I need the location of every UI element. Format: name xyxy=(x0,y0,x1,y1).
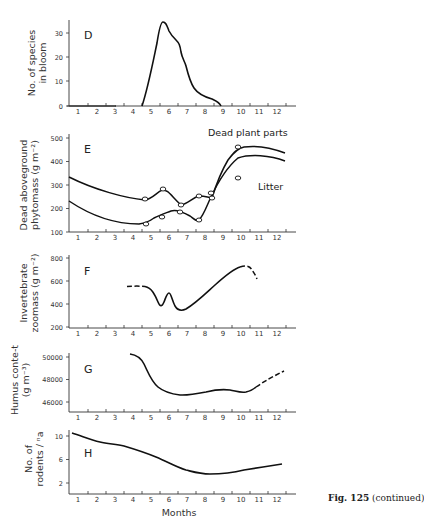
svg-text:10: 10 xyxy=(237,330,246,338)
svg-text:3: 3 xyxy=(113,108,117,116)
svg-text:8: 8 xyxy=(203,414,207,422)
zoomass-dashed-end xyxy=(240,266,257,279)
svg-text:5: 5 xyxy=(149,330,153,338)
svg-text:3: 3 xyxy=(113,234,117,242)
svg-text:7: 7 xyxy=(185,414,189,422)
svg-text:1: 1 xyxy=(76,330,80,338)
y-tick-label: 0 xyxy=(59,103,63,111)
svg-text:6: 6 xyxy=(167,234,172,242)
y-axis-title-2: rodents / ⁿa xyxy=(34,432,45,487)
svg-text:12: 12 xyxy=(273,330,282,338)
panel-d: 0 10 20 30 D No. of species in bloom xyxy=(26,20,296,111)
panel-g: 46000 48000 50000 G Humus conte-t (g m⁻³… xyxy=(9,345,296,415)
y-tick-label: 400 xyxy=(51,301,63,309)
svg-text:12: 12 xyxy=(273,414,282,422)
svg-text:2: 2 xyxy=(95,330,99,338)
y-tick-label: 600 xyxy=(51,278,63,286)
y-axis-title-2: (g m⁻³) xyxy=(20,363,31,398)
svg-text:9: 9 xyxy=(221,108,225,116)
svg-text:12: 12 xyxy=(273,108,282,116)
figure-caption: Fig. 125 (continued) xyxy=(328,493,424,503)
svg-text:7: 7 xyxy=(185,330,189,338)
svg-text:7: 7 xyxy=(185,234,189,242)
svg-text:2: 2 xyxy=(95,234,99,242)
svg-text:1: 1 xyxy=(76,234,80,242)
y-tick-label: 46000 xyxy=(42,399,63,407)
svg-text:5: 5 xyxy=(149,234,153,242)
svg-text:7: 7 xyxy=(185,108,189,116)
rodents-curve xyxy=(72,433,282,474)
svg-text:10: 10 xyxy=(237,234,246,242)
svg-text:1: 1 xyxy=(76,108,80,116)
svg-text:2: 2 xyxy=(95,414,99,422)
y-axis-title-2: in bloom xyxy=(37,42,48,83)
svg-text:11: 11 xyxy=(255,330,264,338)
y-tick-label: 200 xyxy=(51,205,63,213)
svg-text:10: 10 xyxy=(237,414,246,422)
y-tick-label: 500 xyxy=(51,135,63,143)
y-tick-label: 50000 xyxy=(42,354,63,362)
svg-text:11: 11 xyxy=(255,496,264,504)
svg-text:9: 9 xyxy=(221,414,225,422)
svg-text:1: 1 xyxy=(76,414,80,422)
svg-text:6: 6 xyxy=(167,330,172,338)
data-markers xyxy=(142,145,241,226)
svg-text:2: 2 xyxy=(95,496,99,504)
y-axis-title-2: phytomass (g m⁻²) xyxy=(29,140,40,230)
svg-text:11: 11 xyxy=(255,414,264,422)
svg-text:2: 2 xyxy=(95,108,99,116)
month-labels: 1 2 3 4 5 6 7 8 9 10 11 12 1 2 3 4 5 6 7… xyxy=(76,108,282,504)
svg-text:4: 4 xyxy=(131,108,136,116)
figure-caption-suffix: (continued) xyxy=(369,493,424,503)
svg-text:6: 6 xyxy=(167,108,172,116)
series-label-litter: Litter xyxy=(258,181,283,192)
svg-text:8: 8 xyxy=(203,330,207,338)
svg-text:5: 5 xyxy=(149,496,153,504)
y-tick-label: 20 xyxy=(55,54,63,62)
y-tick-label: 200 xyxy=(51,324,63,332)
zoomass-curve xyxy=(145,267,240,310)
y-axis-title: Humus conte-t xyxy=(9,345,20,415)
y-tick-label: 2 xyxy=(59,480,63,488)
y-tick-label: 30 xyxy=(55,30,63,38)
y-tick-label: 100 xyxy=(51,229,63,237)
svg-text:3: 3 xyxy=(113,414,117,422)
y-tick-label: 300 xyxy=(51,182,63,190)
svg-text:9: 9 xyxy=(221,330,225,338)
svg-text:8: 8 xyxy=(203,108,207,116)
svg-text:4: 4 xyxy=(131,234,136,242)
svg-text:4: 4 xyxy=(131,330,136,338)
panel-f: 200 400 600 800 F Invertebrate zoomass (… xyxy=(18,253,296,332)
figure-number: Fig. 125 xyxy=(328,493,369,503)
svg-text:7: 7 xyxy=(185,496,189,504)
svg-text:12: 12 xyxy=(273,496,282,504)
panel-e: 100 200 300 400 500 E Dead aboveground p… xyxy=(18,127,296,237)
svg-text:1: 1 xyxy=(76,496,80,504)
y-tick-label: 10 xyxy=(55,433,63,441)
svg-text:6: 6 xyxy=(167,414,172,422)
svg-text:3: 3 xyxy=(113,330,117,338)
y-tick-label: 10 xyxy=(55,78,63,86)
svg-text:4: 4 xyxy=(131,496,136,504)
y-tick-label: 800 xyxy=(51,255,63,263)
svg-text:5: 5 xyxy=(149,414,153,422)
bloom-curve xyxy=(142,22,221,106)
svg-text:11: 11 xyxy=(255,108,264,116)
panel-letter: G xyxy=(84,363,93,376)
svg-text:3: 3 xyxy=(113,496,117,504)
y-axis-title: Invertebrate xyxy=(18,263,29,322)
svg-text:12: 12 xyxy=(273,234,282,242)
y-axis-title: Dead aboveground xyxy=(18,140,29,231)
panel-letter: H xyxy=(84,447,92,460)
series-label-dead-plant-parts: Dead plant parts xyxy=(208,127,288,138)
svg-text:8: 8 xyxy=(203,234,207,242)
panel-letter: D xyxy=(84,29,92,42)
svg-text:8: 8 xyxy=(203,496,207,504)
y-axis-title: No. of xyxy=(23,444,34,473)
panel-letter: F xyxy=(84,265,90,278)
svg-text:6: 6 xyxy=(167,496,172,504)
humus-curve xyxy=(130,354,256,395)
svg-text:5: 5 xyxy=(149,108,153,116)
x-axis-title: Months xyxy=(162,507,197,518)
